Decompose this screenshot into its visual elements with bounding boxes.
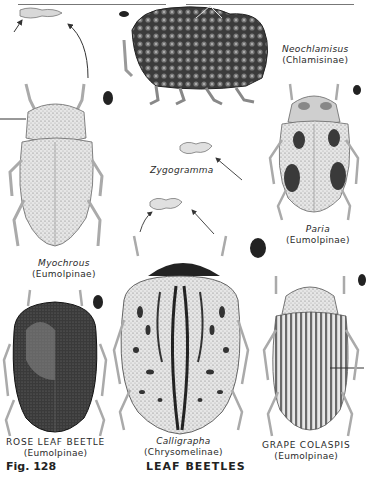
illustration-plate: Neochlamisus (Chlamisinae) Myochrous (Eu… — [0, 0, 373, 483]
paria-genus: Paria — [286, 224, 350, 235]
neochlamisus-label: Neochlamisus (Chlamisinae) — [282, 44, 348, 66]
calligrapha-beetle — [114, 236, 248, 434]
neochlamisus-larva-case — [14, 8, 88, 78]
grape-colaspis-beetle — [264, 276, 364, 436]
figure-number: Fig. 128 — [6, 460, 56, 473]
plate-title: LEAF BEETLES — [146, 460, 246, 473]
grape-colaspis-common-name: GRAPE COLASPIS — [262, 440, 350, 451]
paria-beetle — [270, 84, 358, 220]
zygogramma-genus: Zygogramma — [150, 165, 214, 176]
neochlamisus-size-icon — [119, 11, 129, 17]
myochrous-family: (Eumolpinae) — [32, 269, 96, 280]
grape-colaspis-label: GRAPE COLASPIS (Eumolpinae) — [262, 440, 350, 462]
neochlamisus-beetle — [124, 6, 268, 104]
rose-leaf-beetle — [4, 290, 106, 436]
neochlamisus-family: (Chlamisinae) — [282, 55, 348, 66]
rose-leaf-beetle-size-icon — [93, 295, 103, 309]
rose-leaf-beetle-common-name: ROSE LEAF BEETLE — [6, 437, 105, 448]
myochrous-size-icon — [103, 91, 113, 105]
neochlamisus-genus: Neochlamisus — [282, 44, 348, 55]
grape-colaspis-size-icon — [358, 274, 366, 286]
zygogramma-label: Zygogramma — [150, 165, 214, 176]
rose-leaf-beetle-family: (Eumolpinae) — [6, 448, 105, 459]
calligrapha-label: Calligrapha (Chrysomelinae) — [144, 436, 223, 458]
myochrous-genus: Myochrous — [32, 258, 96, 269]
myochrous-beetle — [0, 84, 102, 246]
calligrapha-size-icon — [250, 238, 266, 258]
paria-label: Paria (Eumolpinae) — [286, 224, 350, 246]
rose-leaf-beetle-label: ROSE LEAF BEETLE (Eumolpinae) — [6, 437, 105, 459]
grape-colaspis-family: (Eumolpinae) — [262, 451, 350, 462]
paria-size-icon — [353, 85, 361, 95]
paria-family: (Eumolpinae) — [286, 235, 350, 246]
zygogramma-larvae — [140, 142, 242, 234]
calligrapha-family: (Chrysomelinae) — [144, 447, 223, 458]
calligrapha-genus: Calligrapha — [144, 436, 223, 447]
myochrous-label: Myochrous (Eumolpinae) — [32, 258, 96, 280]
